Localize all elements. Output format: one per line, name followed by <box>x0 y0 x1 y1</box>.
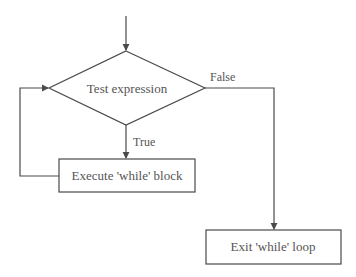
false-arrow <box>205 88 274 229</box>
true-edge-label: True <box>133 135 155 149</box>
loop-back-arrow <box>20 88 59 176</box>
execute-block-label: Execute 'while' block <box>72 168 183 183</box>
decision-label: Test expression <box>87 81 168 96</box>
while-loop-flowchart: Test expression True Execute 'while' blo… <box>0 0 356 277</box>
false-edge-label: False <box>210 70 235 84</box>
exit-loop-label: Exit 'while' loop <box>231 239 316 254</box>
